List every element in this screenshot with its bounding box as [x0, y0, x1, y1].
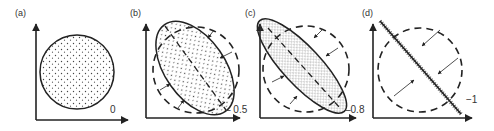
panel-label-a: (a) [15, 8, 26, 18]
panel-label-b: (b) [130, 8, 141, 18]
correlation-label-b: – 0.5 [225, 104, 248, 115]
correlation-label-d: −1 [466, 94, 478, 105]
scatter-circle-a [40, 35, 114, 109]
panel-label-d: (d) [362, 8, 373, 18]
correlation-label-a: 0 [110, 104, 116, 115]
regression-line-d [380, 21, 461, 114]
panel-label-c: (c) [245, 8, 256, 18]
panel-a: (a) 0 [15, 8, 128, 120]
panel-d: (d) −1 [362, 8, 478, 118]
correlation-diagram: (a) 0 (b) – 0.5 (c) –0.8 (d) [0, 0, 494, 131]
dashed-circle-d [378, 28, 462, 112]
panel-c: (c) –0.8 [245, 8, 365, 125]
correlation-label-c: –0.8 [345, 104, 365, 115]
panel-b: (b) – 0.5 [130, 7, 250, 128]
